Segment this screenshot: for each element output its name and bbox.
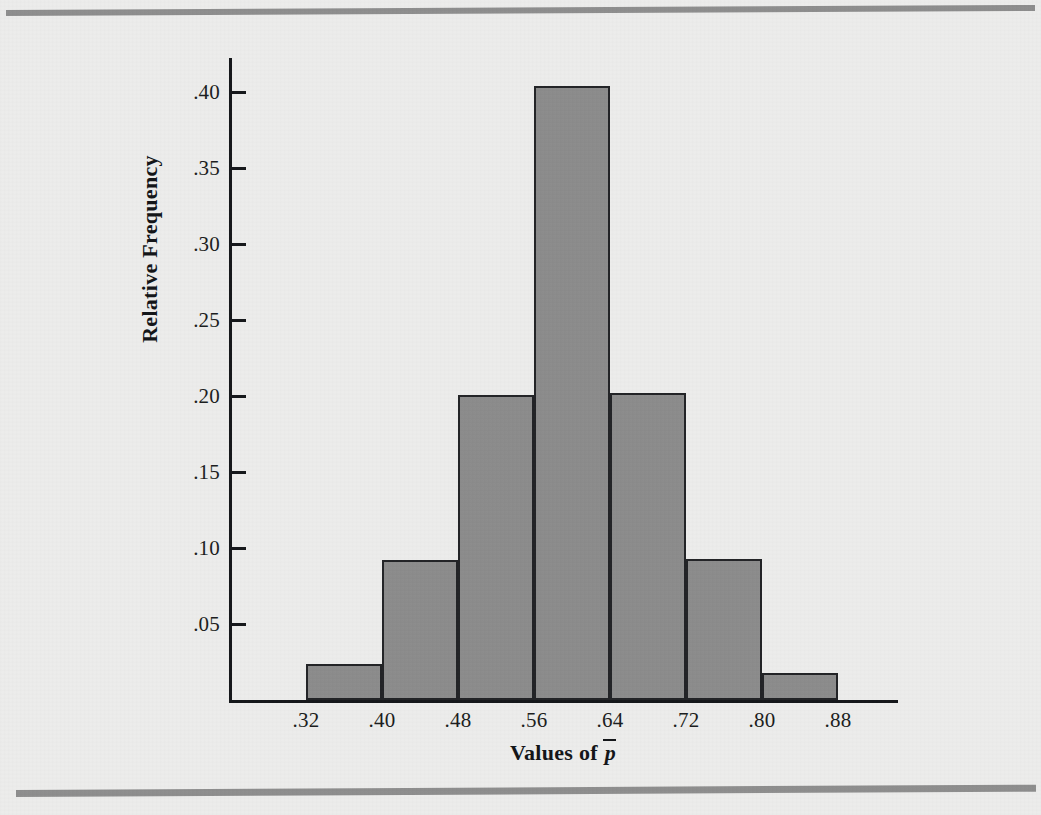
figure-page: .05.10.15.20.25.30.35.40 .32.40.48.56.64… [0, 0, 1041, 815]
y-tick-30: .30 [168, 234, 246, 254]
y-tick-label: .10 [193, 538, 220, 558]
y-tick-mark [232, 243, 246, 246]
y-tick-label: .30 [193, 234, 220, 254]
bar-32-40 [306, 664, 382, 700]
y-tick-mark [232, 623, 246, 626]
x-tick-label-48: .48 [418, 708, 498, 733]
y-tick-mark [232, 167, 246, 170]
y-tick-10: .10 [168, 538, 246, 558]
x-tick-label-40: .40 [342, 708, 422, 733]
y-tick-label: .25 [193, 310, 220, 330]
x-tick-label-32: .32 [266, 708, 346, 733]
x-axis-title-text: Values of [510, 740, 598, 765]
y-tick-mark [232, 91, 246, 94]
y-tick-label: .15 [193, 462, 220, 482]
bar-80-88 [762, 673, 838, 700]
y-tick-15: .15 [168, 462, 246, 482]
y-tick-label: .40 [193, 82, 220, 102]
bar-64-72 [610, 393, 686, 700]
y-tick-05: .05 [168, 614, 246, 634]
y-tick-mark [232, 471, 246, 474]
bar-56-64 [534, 86, 610, 700]
y-axis-line [229, 58, 232, 703]
y-tick-35: .35 [168, 158, 246, 178]
x-tick-label-72: .72 [646, 708, 726, 733]
y-tick-25: .25 [168, 310, 246, 330]
y-tick-mark [232, 395, 246, 398]
x-tick-label-80: .80 [722, 708, 802, 733]
x-tick-label-56: .56 [494, 708, 574, 733]
y-tick-label: .05 [193, 614, 220, 634]
bar-48-56 [458, 395, 534, 700]
y-tick-40: .40 [168, 82, 246, 102]
histogram-plot: .05.10.15.20.25.30.35.40 .32.40.48.56.64… [0, 0, 1041, 815]
y-tick-mark [232, 547, 246, 550]
y-axis-title: Relative Frequency [137, 99, 163, 399]
bar-72-80 [686, 559, 762, 700]
p-bar-symbol: p [604, 740, 617, 766]
x-tick-label-88: .88 [798, 708, 878, 733]
x-tick-label-64: .64 [570, 708, 650, 733]
y-tick-label: .20 [193, 386, 220, 406]
y-tick-label: .35 [193, 158, 220, 178]
x-axis-line [229, 700, 898, 703]
x-axis-title: Values of p [229, 740, 898, 766]
bar-40-48 [382, 560, 458, 700]
y-tick-20: .20 [168, 386, 246, 406]
y-tick-mark [232, 319, 246, 322]
